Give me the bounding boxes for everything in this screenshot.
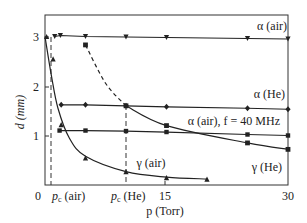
x-tick-15: 15 — [159, 189, 171, 203]
x-tick-30: 30 — [282, 189, 294, 203]
y-tick-3: 3 — [33, 30, 39, 44]
series-1-marker — [245, 105, 250, 111]
x-axis-label: p (Torr) — [146, 204, 183, 218]
series-3-marker — [286, 147, 291, 152]
label-alpha-he: α (He) — [254, 87, 285, 101]
series-2-marker — [164, 130, 168, 134]
label-alpha-air: α (air) — [257, 19, 287, 33]
x-axis: 0 15 30 pc (air) pc (He) p (Torr) — [35, 181, 294, 218]
series-3-marker — [164, 123, 169, 128]
x-tick-pc-air: pc (air) — [51, 189, 85, 204]
series-3-marker — [83, 43, 88, 48]
x-tick-pc-he: pc (He) — [110, 189, 146, 204]
series-3-marker — [245, 141, 250, 146]
y-axis-label: d (mm) — [13, 95, 27, 129]
y-tick-2: 2 — [33, 80, 39, 94]
series-1-marker — [83, 102, 88, 108]
label-gamma-air: γ (air) — [136, 156, 166, 170]
series-1-marker — [164, 104, 169, 110]
series-2-marker — [245, 132, 249, 136]
series-1-marker — [285, 106, 290, 112]
x-tick-0: 0 — [35, 189, 41, 203]
series-1-marker — [59, 102, 64, 108]
series-3-marker — [124, 103, 129, 108]
series-0 — [52, 33, 290, 42]
y-tick-1: 1 — [33, 129, 39, 143]
series-2-marker — [57, 128, 61, 132]
label-gamma-he: γ (He) — [251, 160, 282, 174]
series-2-marker — [83, 128, 87, 132]
series-2-marker — [124, 129, 128, 133]
y-axis: 3 2 1 d (mm) — [13, 30, 49, 143]
chart: 3 2 1 d (mm) 0 15 30 pc (air) pc (He) p … — [0, 0, 307, 223]
series-2-marker — [286, 133, 290, 137]
series-1 — [59, 102, 291, 112]
label-alpha-air-40mhz: α (air), f = 40 MHz — [188, 114, 280, 128]
series-2 — [57, 128, 290, 137]
